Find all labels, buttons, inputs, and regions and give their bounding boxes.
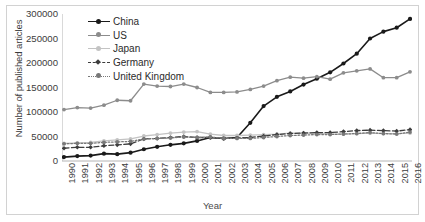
x-tick-label: 2009 [321,163,330,183]
legend-item-china[interactable]: China [88,15,218,29]
y-tick-label: 150000 [12,83,58,93]
x-tick-label: 2000 [201,163,210,183]
y-tick-label: 300000 [12,9,58,19]
x-tick-label: 1999 [188,163,197,183]
data-point [328,70,332,74]
data-point [142,147,146,151]
legend-key-icon [88,57,110,69]
data-point [208,91,212,95]
legend-label: Germany [110,57,154,68]
data-point [328,77,332,81]
y-tick-label: 100000 [12,107,58,117]
y-tick-label: 50000 [12,132,58,142]
data-point [169,136,173,140]
data-point [315,75,319,79]
y-axis-tick-labels: 050000100000150000200000250000300000 [8,14,58,161]
x-tick-label: 2012 [361,163,370,183]
data-point [368,131,372,135]
x-tick-label: 2007 [294,163,303,183]
x-tick-label: 2011 [347,163,356,183]
legend-key-icon [88,16,110,28]
legend-label: United Kingdom [110,71,184,82]
x-tick-label: 2016 [414,163,423,183]
data-point [169,131,173,135]
data-point [89,154,93,158]
data-point [408,17,412,21]
chart-legend: ChinaUSJapanGermanyUnited Kingdom [88,15,218,83]
data-point [301,82,305,86]
data-point [341,61,345,65]
x-tick-label: 1994 [121,163,130,183]
y-tick-label: 200000 [12,58,58,68]
x-tick-label: 2004 [254,163,263,183]
legend-key-icon [88,43,110,55]
data-point [89,106,93,110]
x-tick-label: 2008 [308,163,317,183]
legend-label: US [110,30,127,41]
data-point [195,136,199,140]
data-point [155,145,159,149]
x-tick-label: 2014 [387,163,396,183]
data-point [342,71,346,75]
x-tick-label: 2005 [268,163,277,183]
data-point [88,145,93,150]
data-point [75,154,79,158]
x-tick-label: 1997 [161,163,170,183]
data-point [315,133,319,137]
x-tick-label: 2001 [214,163,223,183]
data-point [262,136,266,140]
data-point [142,137,146,141]
x-tick-label: 1993 [108,163,117,183]
data-point [248,137,252,141]
data-point [355,52,359,56]
x-tick-label: 2006 [281,163,290,183]
data-point [248,121,252,125]
data-point [102,140,106,144]
legend-item-germany[interactable]: Germany [88,56,218,70]
data-point [222,137,226,141]
x-tick-label: 2010 [334,163,343,183]
data-point [288,134,292,138]
data-point [302,76,306,80]
x-tick-label: 2015 [401,163,410,183]
data-point [62,142,66,146]
data-point [62,108,66,112]
legend-item-united-kingdom[interactable]: United Kingdom [88,69,218,83]
x-tick-label: 2013 [374,163,383,183]
data-point [395,132,399,136]
data-point [381,76,385,80]
legend-item-japan[interactable]: Japan [88,42,218,56]
data-point [75,141,79,145]
data-point [75,106,79,110]
data-point [208,135,212,139]
data-point [288,89,292,93]
data-point [381,30,385,34]
x-tick-label: 2003 [241,163,250,183]
data-point [75,145,80,150]
data-point [395,76,399,80]
legend-key-icon [88,29,110,41]
data-point [62,155,66,159]
x-tick-label: 1998 [174,163,183,183]
x-tick-label: 1992 [95,163,104,183]
data-point [129,99,133,103]
data-point [235,90,239,94]
data-point [62,146,66,151]
chart-figure: Number of published articles Year 050000… [0,0,425,222]
data-point [89,141,93,145]
data-point [262,104,266,108]
data-point [368,36,372,40]
y-tick-label: 0 [12,156,58,166]
data-point [115,140,119,144]
x-tick-label: 1991 [81,163,90,183]
data-point [102,103,106,107]
data-point [288,75,292,79]
data-point [408,130,412,134]
data-point [381,132,385,136]
data-point [182,141,186,145]
data-point [328,133,332,137]
legend-label: Japan [110,43,140,54]
data-point [302,133,306,137]
legend-item-us[interactable]: US [88,29,218,43]
data-point [128,151,132,155]
